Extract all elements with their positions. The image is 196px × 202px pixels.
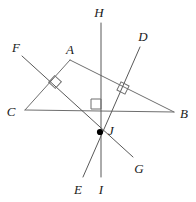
point-label-F: F bbox=[12, 41, 20, 54]
point-label-H: H bbox=[94, 6, 103, 19]
point-label-B: B bbox=[180, 107, 188, 120]
point-marker-J bbox=[97, 129, 103, 135]
geometry-canvas bbox=[0, 0, 196, 202]
segment-side-AB bbox=[70, 60, 174, 112]
point-label-E: E bbox=[74, 183, 82, 196]
point-label-G: G bbox=[134, 162, 143, 175]
point-label-J: J bbox=[108, 124, 114, 137]
line-F-to-G bbox=[22, 56, 133, 157]
geometry-diagram: A B C D E F G H I J bbox=[0, 0, 196, 202]
right-angle-mark-on-CB bbox=[91, 99, 101, 109]
line-D-to-E bbox=[83, 47, 140, 177]
point-label-A: A bbox=[66, 43, 74, 56]
point-label-D: D bbox=[138, 30, 147, 43]
segment-side-CB bbox=[25, 110, 174, 112]
right-angle-mark-on-AB bbox=[117, 82, 129, 94]
point-label-C: C bbox=[7, 105, 16, 118]
point-label-I: I bbox=[99, 183, 103, 196]
segment-side-AC bbox=[25, 60, 70, 110]
